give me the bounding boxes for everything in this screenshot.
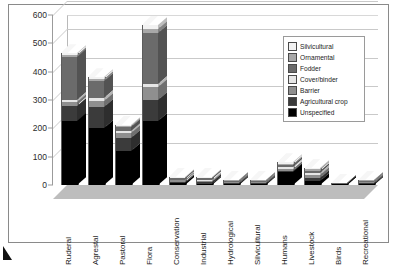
y-axis-tick-label: 500 <box>33 38 47 48</box>
bar-segment <box>115 151 131 185</box>
bar-top-cap <box>88 68 104 77</box>
bar-segment <box>88 81 104 98</box>
y-axis: 0100200300400500600 <box>9 15 53 185</box>
legend-label: Unspecified <box>300 109 334 116</box>
stacked-bar[interactable] <box>304 168 320 185</box>
bar-segment-front <box>61 106 79 122</box>
bar-segment-front <box>61 121 79 185</box>
stacked-bar[interactable] <box>277 162 293 185</box>
bar-segment-front <box>88 107 106 128</box>
bar-segment-side <box>77 113 86 185</box>
bar-segment-front <box>115 138 133 151</box>
bar-top-face <box>223 171 239 180</box>
legend-label: Ornamental <box>300 54 334 61</box>
legend-swatch <box>288 64 297 73</box>
y-axis-tick-label: 600 <box>33 10 47 20</box>
chart-legend: SilviculturalOrnamentalFodderCover/binde… <box>283 36 365 122</box>
bar-top-face <box>88 68 104 77</box>
stacked-bar[interactable] <box>142 25 158 185</box>
bar-segment <box>142 121 158 185</box>
x-axis-labels: RuderalAgrestalPastoralFloraConservation… <box>53 201 393 265</box>
bar-top-face <box>196 168 212 177</box>
bar-top-face <box>277 153 293 162</box>
legend-swatch <box>288 75 297 84</box>
bar-segment-front <box>88 81 106 98</box>
x-axis-label: Flora <box>145 247 154 265</box>
x-axis-label: Humans <box>280 235 289 265</box>
bar-top-cap <box>115 116 131 125</box>
legend-swatch <box>288 108 297 117</box>
legend-item[interactable]: Cover/binder <box>288 74 361 84</box>
bar-top-cap <box>358 171 374 180</box>
legend-label: Barrier <box>300 87 320 94</box>
bar-top-face <box>331 174 347 183</box>
bar-segment-front <box>115 151 133 185</box>
bar-top-face <box>304 159 320 168</box>
bar-segment <box>61 57 77 100</box>
bar-segment <box>142 100 158 121</box>
bar-top-face <box>61 44 77 53</box>
legend-item[interactable]: Ornamental <box>288 52 361 62</box>
x-axis-label: Birds <box>334 247 343 265</box>
bar-segment <box>61 121 77 185</box>
x-axis-label: Recreational <box>361 220 370 265</box>
legend-label: Cover/binder <box>300 76 338 83</box>
bar-top-cap <box>142 16 158 25</box>
bar-top-face <box>358 171 374 180</box>
bar-top-face <box>250 171 266 180</box>
bar-segment-front <box>61 57 79 100</box>
stacked-bar[interactable] <box>196 177 212 185</box>
legend-item[interactable]: Barrier <box>288 85 361 95</box>
legend-label: Silvicultural <box>300 43 333 50</box>
bar-top-face <box>115 116 131 125</box>
legend-item[interactable]: Unspecified <box>288 107 361 117</box>
stacked-bar[interactable] <box>115 125 131 185</box>
y-axis-tick-label: 100 <box>33 152 47 162</box>
legend-label: Fodder <box>300 65 321 72</box>
bar-top-face <box>142 16 158 25</box>
bar-segment <box>277 172 293 185</box>
legend-item[interactable]: Agricultural crop <box>288 96 361 106</box>
x-axis-label: Pastoral <box>118 236 127 265</box>
stacked-bar[interactable] <box>88 77 104 185</box>
floor-slab <box>53 185 378 199</box>
corner-arrow-icon <box>2 243 18 261</box>
x-axis-label: Industrial <box>199 233 208 265</box>
stacked-bar[interactable] <box>61 53 77 185</box>
legend-swatch <box>288 53 297 62</box>
y-axis-tick-label: 0 <box>42 180 47 190</box>
y-axis-tick-label: 300 <box>33 95 47 105</box>
x-axis-label: Silvicultural <box>253 225 262 265</box>
bar-segment-side <box>158 25 167 84</box>
gridline <box>67 1 378 2</box>
bar-segment-front <box>88 128 106 185</box>
bar-top-face <box>169 168 185 177</box>
stacked-bar[interactable] <box>169 177 185 185</box>
bar-segment <box>142 87 158 100</box>
bar-segment <box>61 106 77 122</box>
y-axis-tick-label: 200 <box>33 123 47 133</box>
bar-segment-side <box>131 143 140 185</box>
chart-frame: 0100200300400500600 RuderalAgrestalPasto… <box>8 4 389 243</box>
x-axis-label: Hydrological <box>226 221 235 265</box>
bar-top-cap <box>61 44 77 53</box>
bar-segment <box>88 128 104 185</box>
bar-segment <box>142 33 158 84</box>
legend-swatch <box>288 97 297 106</box>
y-axis-tick-label: 400 <box>33 67 47 77</box>
x-axis-label: Agrestal <box>91 236 100 265</box>
legend-item[interactable]: Silvicultural <box>288 41 361 51</box>
chart-floor <box>53 185 378 199</box>
x-axis-label: Conservation <box>172 218 181 265</box>
bar-top-cap <box>169 168 185 177</box>
bar-segment <box>88 107 104 128</box>
bar-top-cap <box>331 174 347 183</box>
bar-top-cap <box>277 153 293 162</box>
bar-top-cap <box>250 171 266 180</box>
legend-item[interactable]: Fodder <box>288 63 361 73</box>
bar-segment-side <box>158 113 167 185</box>
x-axis-label: Livestock <box>307 232 316 265</box>
bar-top-cap <box>304 159 320 168</box>
legend-label: Agricultural crop <box>300 98 348 105</box>
bar-top-cap <box>223 171 239 180</box>
